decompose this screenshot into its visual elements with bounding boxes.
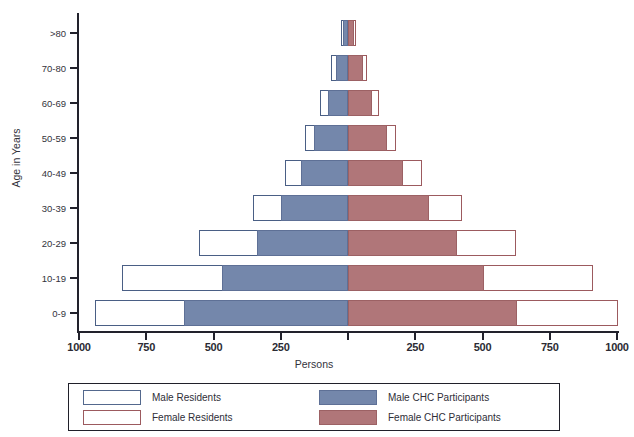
y-axis-tick [70,207,78,209]
bar-male-chc-participants-6069 [328,90,348,116]
bar-female-chc-participants-6069 [348,90,372,116]
x-axis-label: 1000 [49,341,109,353]
legend-swatch-filled-red [319,410,377,425]
x-axis-label: 500 [453,341,513,353]
x-axis-label: 250 [251,341,311,353]
bar-female-chc-participants-3039 [348,195,429,221]
y-axis-label-4049: 40-49 [0,167,66,178]
x-axis-title: Persons [0,358,628,370]
x-axis-tick [549,333,551,340]
bar-female-chc-participants-4049 [348,160,403,186]
y-axis-tick [70,242,78,244]
legend-item-female-residents: Female Residents [83,410,233,425]
bar-male-chc-participants-7080 [336,55,348,81]
y-axis-label-6069: 60-69 [0,97,66,108]
x-axis-label: 250 [385,341,445,353]
y-axis-label-7080: 70-80 [0,62,66,73]
y-axis-title: Age in Years [10,98,22,218]
x-axis-label: 750 [520,341,580,353]
x-axis-tick [145,333,147,340]
legend-label: Male CHC Participants [388,392,489,403]
y-axis-label-09: 0-9 [0,307,66,318]
y-axis-label-80: >80 [0,27,66,38]
y-axis-label-2029: 20-29 [0,237,66,248]
y-axis-label-3039: 30-39 [0,202,66,213]
y-axis-tick [70,102,78,104]
bar-male-chc-participants-1019 [222,265,348,291]
y-axis-label-1019: 10-19 [0,272,66,283]
x-axis-tick [280,333,282,340]
x-axis-tick [78,333,80,340]
bar-male-chc-participants-2029 [257,230,348,256]
x-axis-tick-center [347,333,349,340]
y-axis-label-5059: 50-59 [0,132,66,143]
bar-female-chc-participants-7080 [348,55,363,81]
x-axis-tick [414,333,416,340]
x-axis-label: 1000 [587,341,634,353]
legend-item-male-residents: Male Residents [83,390,221,405]
legend-swatch-filled-blue [319,390,377,405]
y-axis-tick [70,172,78,174]
x-axis-tick [213,333,215,340]
bar-male-chc-participants-09 [184,300,348,326]
x-axis-label: 750 [116,341,176,353]
x-axis-label: 500 [184,341,244,353]
legend-item-female-chc-participants: Female CHC Participants [319,410,501,425]
legend-label: Female CHC Participants [388,412,501,423]
legend: Male ResidentsMale CHC ParticipantsFemal… [68,383,560,431]
bar-male-chc-participants-4049 [301,160,348,186]
bar-female-chc-participants-1019 [348,265,484,291]
bar-female-chc-participants-09 [348,300,517,326]
legend-label: Male Residents [152,392,221,403]
bar-male-chc-participants-5059 [314,125,348,151]
legend-label: Female Residents [152,412,233,423]
bar-female-chc-participants-80 [348,20,354,46]
y-axis-tick [70,277,78,279]
y-axis-tick [70,32,78,34]
legend-swatch-outline-blue [83,390,141,405]
y-axis-tick [70,137,78,139]
legend-item-male-chc-participants: Male CHC Participants [319,390,489,405]
bar-female-chc-participants-2029 [348,230,457,256]
x-axis-tick [616,333,618,340]
legend-swatch-outline-red [83,410,141,425]
bar-female-chc-participants-5059 [348,125,387,151]
bar-male-chc-participants-3039 [281,195,348,221]
y-axis-tick [70,312,78,314]
x-axis-tick [482,333,484,340]
y-axis-tick [70,67,78,69]
